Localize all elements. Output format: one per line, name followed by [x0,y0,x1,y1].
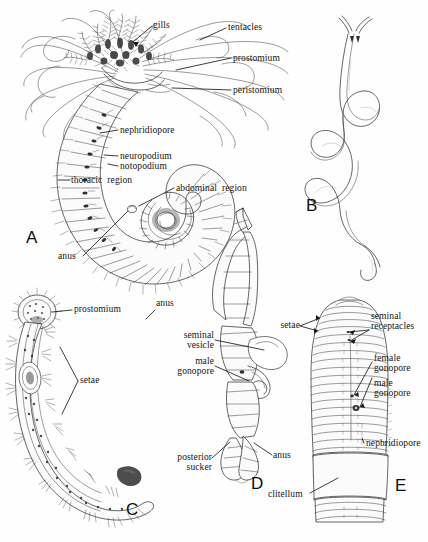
label-anus-d: anus [273,450,291,461]
illustration-canvas [0,0,428,542]
label-prostomium-c: prostomium [74,304,121,315]
panel-letter-c: C [126,500,138,520]
panel-c-drawing [6,288,154,527]
label-nephridiopore-e: nephridiopore [366,438,421,449]
panel-letter-d: D [251,474,263,494]
label-thoracic-region: thoracic region [71,175,132,186]
label-anus-c: anus [156,298,174,309]
label-tentacles: tentacles [228,22,262,33]
panel-letter-a: A [26,228,37,248]
label-gills: gills [153,20,170,31]
panel-d-drawing [213,208,288,483]
label-prostomium-a: prostomium [233,53,280,64]
label-peristomium: peristomium [233,85,282,96]
label-clitellum: clitellum [268,489,303,500]
label-posterior-sucker: posterior sucker [160,452,212,472]
panel-e-male-gonopore-mark [353,405,360,411]
label-setae-c: setae [80,375,100,386]
label-female-gonopore: female gonopore [374,353,411,373]
caption-strip [0,530,428,542]
label-abdominal-region: abdominal region [176,183,247,194]
label-notopodium: notopodium [120,161,167,172]
panel-letter-e: E [395,476,406,496]
label-male-gonopore-e: male gonopore [374,378,411,398]
label-seminal-receptacles: seminal receptacles [371,311,414,331]
label-anus-a: anus [58,251,76,262]
panel-letter-b: B [306,196,317,216]
label-neuropodium: neuropodium [120,151,172,162]
label-nephridiopore-a: nephridiopore [120,125,175,136]
label-male-gonopore-d: male gonopore [166,356,214,376]
panel-c-ventral-markings [23,335,123,510]
figure-plate: gills tentacles prostomium peristomium n… [0,0,428,542]
label-setae-e: setae [272,320,300,331]
label-seminal-vesicle: seminal vesicle [166,330,214,350]
panel-b-drawing [305,16,380,280]
